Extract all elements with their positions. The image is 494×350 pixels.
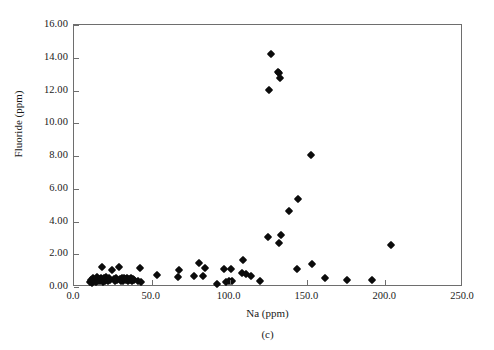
data-point <box>136 263 144 271</box>
y-axis-tick <box>74 25 79 26</box>
data-point <box>275 239 283 247</box>
y-axis-tick <box>74 123 79 124</box>
data-point <box>256 277 264 285</box>
y-axis-tick <box>74 287 79 288</box>
data-point <box>227 264 235 272</box>
data-point <box>276 74 284 82</box>
data-point <box>153 271 161 279</box>
data-point <box>343 275 351 283</box>
data-point <box>190 272 198 280</box>
y-axis-tick <box>74 156 79 157</box>
data-point <box>264 232 272 240</box>
x-axis-tick <box>230 280 231 285</box>
panel-caption: (c) <box>73 328 462 340</box>
data-point <box>308 260 316 268</box>
y-axis-title: Fluoride (ppm) <box>12 64 24 184</box>
plot-area <box>73 24 462 286</box>
data-point <box>267 50 275 58</box>
y-axis-tick <box>74 254 79 255</box>
x-axis-tick-labels: 0.050.0100.0150.0200.0250.0 <box>73 290 462 306</box>
y-axis-tick <box>74 58 79 59</box>
data-point <box>307 150 315 158</box>
x-axis-tick-label: 0.0 <box>38 290 108 302</box>
data-point <box>321 274 329 282</box>
data-point <box>368 275 376 283</box>
data-point <box>285 206 293 214</box>
x-axis-tick-label: 250.0 <box>427 290 494 302</box>
data-point <box>200 263 208 271</box>
data-points-layer <box>74 25 461 285</box>
x-axis-tick-label: 100.0 <box>194 290 264 302</box>
y-axis-tick-label: 2.00 <box>8 248 68 258</box>
data-point <box>98 263 106 271</box>
data-point <box>294 195 302 203</box>
data-point <box>239 256 247 264</box>
data-point <box>387 241 395 249</box>
y-axis-tick <box>74 189 79 190</box>
data-point <box>293 265 301 273</box>
data-point <box>247 272 255 280</box>
x-axis-tick-label: 50.0 <box>116 290 186 302</box>
data-point <box>213 280 221 288</box>
x-axis-tick <box>385 280 386 285</box>
data-point <box>199 272 207 280</box>
x-axis-tick-label: 150.0 <box>271 290 341 302</box>
y-axis-tick <box>74 222 79 223</box>
x-axis-tick <box>307 280 308 285</box>
y-axis-tick-label: 16.00 <box>8 19 68 29</box>
x-axis-tick <box>152 280 153 285</box>
y-axis-tick-label: 4.00 <box>8 216 68 226</box>
x-axis-tick-label: 200.0 <box>349 290 419 302</box>
y-axis-tick-label: 6.00 <box>8 183 68 193</box>
data-point <box>265 86 273 94</box>
y-axis-tick <box>74 91 79 92</box>
y-axis-tick-label: 14.00 <box>8 52 68 62</box>
scatter-chart-figure: 0.002.004.006.008.0010.0012.0014.0016.00… <box>0 0 494 350</box>
x-axis-title: Na (ppm) <box>73 307 462 319</box>
